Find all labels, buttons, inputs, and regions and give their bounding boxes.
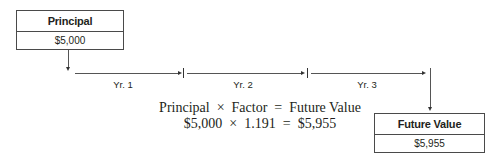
principal-header: Principal (17, 11, 123, 32)
timeline-tick-1 (183, 68, 184, 78)
timeline-segment-1 (75, 73, 178, 74)
arrow-right-icon (301, 71, 305, 75)
timeline-segment-2 (187, 73, 301, 74)
principal-connector-line (68, 50, 69, 68)
future-value-header: Future Value (375, 114, 484, 135)
future-value-down-arrow-icon (428, 107, 432, 111)
period-label-yr1: Yr. 1 (103, 79, 143, 90)
formula-words: Principal × Factor = Future Value (140, 100, 380, 116)
formula-numbers: $5,000 × 1.191 = $5,955 (140, 116, 380, 132)
arrow-right-icon (422, 71, 426, 75)
principal-value: $5,000 (17, 32, 123, 50)
future-value-connector-line (430, 68, 431, 108)
timeline-segment-3 (311, 73, 422, 74)
period-label-yr2: Yr. 2 (223, 79, 263, 90)
principal-down-arrow-icon (66, 67, 70, 71)
arrow-right-icon (178, 71, 182, 75)
future-value-value: $5,955 (375, 135, 484, 153)
future-value-box: Future Value $5,955 (374, 113, 485, 153)
period-label-yr3: Yr. 3 (347, 79, 387, 90)
timeline-tick-2 (307, 68, 308, 78)
principal-box: Principal $5,000 (16, 10, 124, 50)
